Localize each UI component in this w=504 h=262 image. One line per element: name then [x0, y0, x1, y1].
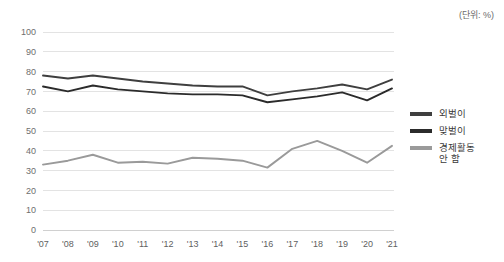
series-line — [43, 141, 392, 168]
x-axis-tick-label: '16 — [261, 239, 273, 249]
chart-legend: 외벌이 맞벌이 경제활동 안 함 — [410, 108, 504, 170]
x-axis-tick-label: '07 — [37, 239, 49, 249]
legend-item-matbeori[interactable]: 맞벌이 — [410, 125, 504, 136]
y-axis-tick-label: 10 — [26, 205, 36, 215]
y-axis-tick-label: 0 — [31, 225, 36, 235]
x-axis-tick-label: '14 — [212, 239, 224, 249]
x-axis-tick-label: '18 — [311, 239, 323, 249]
chart-container: (단위: %) 0102030405060708090100 '07'08'09… — [0, 0, 504, 262]
y-axis-tick-label: 60 — [26, 106, 36, 116]
y-axis-tick-label: 90 — [26, 47, 36, 57]
x-axis-tick-label: '19 — [336, 239, 348, 249]
x-axis-tick-label: '10 — [112, 239, 124, 249]
data-series — [43, 76, 392, 168]
legend-item-no-economic-activity[interactable]: 경제활동 안 함 — [410, 142, 504, 164]
y-axis-tick-label: 70 — [26, 87, 36, 97]
x-axis-tick-label: '20 — [361, 239, 373, 249]
legend-label: 경제활동 안 함 — [439, 142, 475, 164]
x-axis-tick-label: '11 — [137, 239, 148, 249]
y-axis-tick-label: 50 — [26, 126, 36, 136]
legend-swatch-icon — [410, 112, 432, 116]
legend-swatch-icon — [410, 129, 432, 133]
x-axis-tick-label: '15 — [237, 239, 249, 249]
x-axis-tick-label: '09 — [87, 239, 99, 249]
x-axis-tick-label: '21 — [386, 239, 398, 249]
gridlines — [43, 32, 394, 230]
x-axis-tick-label: '08 — [62, 239, 74, 249]
x-axis-tick-labels: '07'08'09'10'11'12'13'14'15'16'17'18'19'… — [37, 239, 398, 249]
x-axis-tick-label: '17 — [286, 239, 298, 249]
y-axis-tick-label: 40 — [26, 146, 36, 156]
x-axis-tick-label: '12 — [162, 239, 174, 249]
series-line — [43, 85, 392, 102]
y-axis-tick-label: 80 — [26, 67, 36, 77]
legend-swatch-icon — [410, 146, 432, 150]
y-axis-tick-label: 20 — [26, 186, 36, 196]
x-axis-tick-label: '13 — [187, 239, 199, 249]
y-axis-tick-label: 100 — [21, 27, 36, 37]
y-axis-tick-label: 30 — [26, 166, 36, 176]
legend-label: 맞벌이 — [439, 125, 466, 136]
legend-item-oebeori[interactable]: 외벌이 — [410, 108, 504, 119]
legend-label: 외벌이 — [439, 108, 466, 119]
y-axis-tick-labels: 0102030405060708090100 — [21, 27, 36, 235]
